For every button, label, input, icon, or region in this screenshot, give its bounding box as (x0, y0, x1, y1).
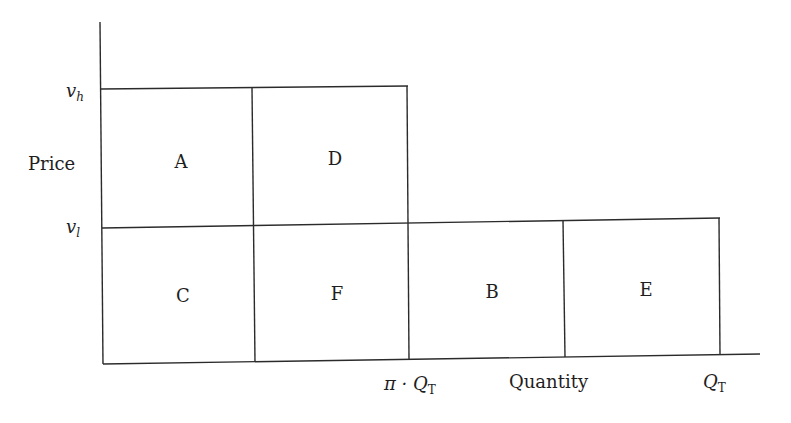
price-quantity-diagram: A D C F B E Price vh vl π · QT Quantity … (0, 0, 791, 423)
divider-qt (719, 218, 720, 355)
divider-3 (563, 220, 565, 357)
x-axis-label: Quantity (509, 371, 589, 392)
region-b: B (485, 281, 498, 302)
region-d: D (328, 148, 342, 169)
y-axis (100, 22, 103, 364)
vh-line (101, 86, 408, 89)
region-f: F (331, 283, 344, 304)
region-e: E (639, 279, 652, 300)
y-axis-label: Price (28, 153, 75, 174)
tick-pi-qt: π · QT (383, 373, 436, 397)
region-a: A (174, 151, 189, 172)
tick-vl: vl (66, 216, 80, 240)
divider-pi-qt (407, 86, 409, 359)
region-c: C (176, 285, 190, 306)
tick-qt: QT (703, 371, 726, 395)
x-axis (103, 354, 760, 364)
tick-vh: vh (66, 80, 84, 104)
vl-line (102, 218, 720, 228)
